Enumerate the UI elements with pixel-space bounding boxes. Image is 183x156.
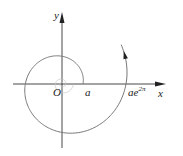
y-axis-label: y [53, 9, 59, 21]
origin-label: O [53, 86, 61, 98]
spiral-curve [25, 45, 127, 134]
direction-arrow-icon [123, 51, 127, 59]
x-axis-arrow-icon [155, 82, 166, 87]
ae2pi-label: ae2π [128, 85, 146, 98]
ae2pi-base: ae [128, 86, 139, 98]
ae2pi-exponent: 2π [138, 85, 146, 93]
x-axis-label: x [157, 87, 163, 99]
y-axis-arrow-icon [60, 12, 65, 23]
a-label: a [85, 86, 91, 98]
spiral-diagram: y O a ae2π x [0, 0, 183, 156]
